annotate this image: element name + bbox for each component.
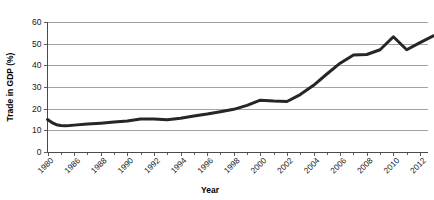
- y-tick-label: 30: [32, 82, 42, 92]
- x-axis-title: Year: [201, 185, 220, 195]
- y-axis-title: Trade in GDP (%): [5, 52, 15, 121]
- chart-container: 0102030405060 19801986198819901992199419…: [0, 0, 434, 200]
- y-tick-label: 0: [37, 147, 42, 157]
- y-tick-label: 50: [32, 39, 42, 49]
- y-tick-label: 40: [32, 60, 42, 70]
- y-tick-label: 20: [32, 104, 42, 114]
- y-tick-label: 10: [32, 125, 42, 135]
- y-tick-label: 60: [32, 17, 42, 27]
- line-chart: 0102030405060 19801986198819901992199419…: [0, 0, 434, 200]
